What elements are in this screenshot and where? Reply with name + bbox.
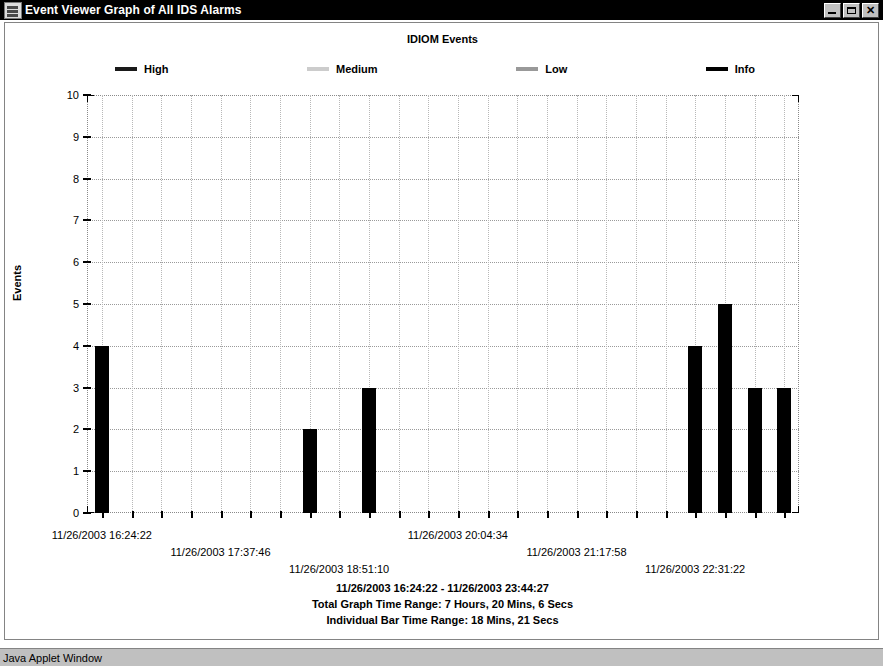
footer-line: Total Graph Time Range: 7 Hours, 20 Mins…: [5, 596, 879, 612]
y-tick-mark: [83, 303, 91, 305]
y-tick-label: 2: [57, 423, 79, 435]
plot-area: [87, 95, 799, 513]
x-axis-tick-labels: 11/26/2003 16:24:2211/26/2003 17:37:4611…: [5, 520, 879, 580]
chart-bar[interactable]: [362, 388, 376, 513]
y-tick-label: 10: [57, 89, 79, 101]
y-tick-label: 8: [57, 173, 79, 185]
x-tick-label: 11/26/2003 21:17:58: [526, 546, 626, 558]
x-tick-mark: [458, 511, 460, 518]
x-tick-mark: [310, 511, 312, 518]
x-tick-label: 11/26/2003 22:31:22: [645, 563, 745, 575]
x-tick-mark: [636, 511, 638, 518]
chart-bar[interactable]: [95, 346, 109, 513]
x-tick-mark: [725, 511, 727, 518]
y-tick-mark: [83, 387, 91, 389]
frame-corner-top-right: [792, 95, 799, 102]
y-tick-label: 3: [57, 382, 79, 394]
x-tick-mark: [695, 511, 697, 518]
minimize-icon: [828, 12, 836, 14]
application-window: Event Viewer Graph of All IDS Alarms ✕ I…: [0, 0, 883, 666]
x-tick-mark: [606, 511, 608, 518]
chart-bar[interactable]: [303, 429, 317, 513]
y-axis-label: Events: [11, 265, 23, 301]
x-tick-mark: [517, 511, 519, 518]
frame-corner-top-left: [87, 95, 94, 102]
x-tick-label: 11/26/2003 20:04:34: [408, 529, 508, 541]
y-tick-mark: [83, 261, 91, 263]
y-tick-mark: [83, 94, 91, 96]
maximize-icon: [847, 7, 856, 14]
y-tick-mark: [83, 219, 91, 221]
title-bar[interactable]: Event Viewer Graph of All IDS Alarms ✕: [0, 0, 883, 20]
x-tick-mark: [488, 511, 490, 518]
x-tick-mark: [369, 511, 371, 518]
y-tick-mark: [83, 136, 91, 138]
status-bar: Java Applet Window: [0, 648, 883, 666]
x-tick-mark: [339, 511, 341, 518]
y-tick-mark: [83, 345, 91, 347]
x-tick-mark: [191, 511, 193, 518]
x-tick-mark: [221, 511, 223, 518]
x-tick-label: 11/26/2003 18:51:10: [289, 563, 389, 575]
x-tick-mark: [755, 511, 757, 518]
chart-bar[interactable]: [748, 388, 762, 513]
y-tick-label: 7: [57, 214, 79, 226]
x-tick-mark: [577, 511, 579, 518]
applet-client-area: IDIOM Events HighMediumLowInfo Events 01…: [4, 22, 879, 640]
x-tick-mark: [250, 511, 252, 518]
y-tick-label: 5: [57, 298, 79, 310]
chart-bar[interactable]: [688, 346, 702, 513]
status-text: Java Applet Window: [0, 652, 102, 664]
x-tick-mark: [102, 511, 104, 518]
minimize-button[interactable]: [824, 3, 841, 18]
close-icon: ✕: [866, 5, 875, 16]
footer-line: 11/26/2003 16:24:22 - 11/26/2003 23:44:2…: [5, 580, 879, 596]
y-tick-mark: [83, 470, 91, 472]
x-tick-mark: [280, 511, 282, 518]
y-tick-label: 4: [57, 340, 79, 352]
x-tick-mark: [547, 511, 549, 518]
y-tick-mark: [83, 428, 91, 430]
y-tick-label: 6: [57, 256, 79, 268]
chart-bar[interactable]: [718, 304, 732, 513]
footer-line: Individual Bar Time Range: 18 Mins, 21 S…: [5, 612, 879, 628]
y-tick-label: 0: [57, 507, 79, 519]
y-tick-mark: [83, 512, 91, 514]
x-tick-mark: [161, 511, 163, 518]
window-title: Event Viewer Graph of All IDS Alarms: [25, 3, 824, 17]
x-tick-mark: [784, 511, 786, 518]
plot-wrapper: Events 012345678910 11/26/2003 16:24:221…: [5, 23, 879, 640]
frame-corner-bottom-right: [792, 506, 799, 513]
x-tick-mark: [399, 511, 401, 518]
maximize-button[interactable]: [843, 3, 860, 18]
x-tick-label: 11/26/2003 16:24:22: [52, 529, 152, 541]
close-button[interactable]: ✕: [862, 3, 879, 18]
y-tick-label: 1: [57, 465, 79, 477]
window-controls: ✕: [824, 3, 881, 18]
y-tick-label: 9: [57, 131, 79, 143]
y-tick-mark: [83, 178, 91, 180]
x-tick-label: 11/26/2003 17:37:46: [170, 546, 270, 558]
x-tick-mark: [132, 511, 134, 518]
x-tick-mark: [666, 511, 668, 518]
app-icon: [4, 2, 22, 19]
chart-footer: 11/26/2003 16:24:22 - 11/26/2003 23:44:2…: [5, 580, 879, 628]
chart-bar[interactable]: [777, 388, 791, 513]
x-tick-mark: [428, 511, 430, 518]
